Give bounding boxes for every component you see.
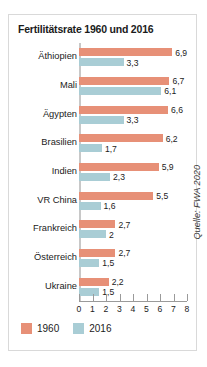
bar-group: 5,92,3 <box>79 158 196 187</box>
value-label: 5,9 <box>162 163 174 171</box>
chart-row: Mali6,76,1 <box>9 72 196 101</box>
chart-row: Indien5,92,3 <box>9 158 196 187</box>
x-tick-label: 0 <box>77 304 82 314</box>
value-label: 6,6 <box>171 106 183 114</box>
bar-group: 6,93,3 <box>79 43 196 72</box>
value-label: 2 <box>109 231 114 239</box>
bar-1960[interactable] <box>79 134 163 142</box>
legend-label-2016: 2016 <box>89 323 111 334</box>
source-note: Quelle: FWA 2020 <box>192 165 202 240</box>
legend-item-2016[interactable]: 2016 <box>73 323 111 334</box>
value-label: 1,5 <box>102 259 114 267</box>
x-tick-label: 1 <box>90 304 95 314</box>
bar-1960[interactable] <box>79 220 115 228</box>
bar-1960[interactable] <box>79 77 169 85</box>
value-label: 6,9 <box>175 49 187 57</box>
chart-row: VR China5,51,6 <box>9 186 196 215</box>
category-label: Äthiopien <box>13 51 77 61</box>
x-tick-label: 8 <box>185 304 190 314</box>
category-label: Ägypten <box>13 109 77 119</box>
bar-group: 6,76,1 <box>79 72 196 101</box>
category-label: Ukraine <box>13 281 77 291</box>
x-tick <box>120 294 121 301</box>
x-tick <box>187 294 188 301</box>
bar-2016[interactable] <box>79 288 99 296</box>
value-label: 2,7 <box>118 249 130 257</box>
bar-2016[interactable] <box>79 116 124 124</box>
chart-row: Ägypten6,63,3 <box>9 100 196 129</box>
bar-2016[interactable] <box>79 202 101 210</box>
x-tick-label: 6 <box>158 304 163 314</box>
bar-2016[interactable] <box>79 87 161 95</box>
x-tick <box>133 294 134 301</box>
x-tick <box>174 294 175 301</box>
bar-1960[interactable] <box>79 163 159 171</box>
x-tick <box>160 294 161 301</box>
value-label: 3,3 <box>127 59 139 67</box>
bar-1960[interactable] <box>79 249 115 257</box>
chart-row: Frankreich2,72 <box>9 215 196 244</box>
bar-1960[interactable] <box>79 192 153 200</box>
bar-2016[interactable] <box>79 259 99 267</box>
x-tick-label: 2 <box>104 304 109 314</box>
value-label: 5,5 <box>156 192 168 200</box>
x-tick-label: 5 <box>144 304 149 314</box>
chart-legend: 1960 2016 <box>21 323 112 334</box>
chart-title: Fertilitätsrate 1960 und 2016 <box>18 23 153 35</box>
bar-2016[interactable] <box>79 58 124 66</box>
x-tick <box>93 294 94 301</box>
x-tick-label: 4 <box>131 304 136 314</box>
legend-label-1960: 1960 <box>37 323 59 334</box>
value-label: 6,2 <box>166 135 178 143</box>
bar-1960[interactable] <box>79 106 168 114</box>
value-label: 2,7 <box>118 221 130 229</box>
x-tick <box>147 294 148 301</box>
category-label: Indien <box>13 166 77 176</box>
legend-item-1960[interactable]: 1960 <box>21 323 59 334</box>
value-label: 6,7 <box>172 77 184 85</box>
category-label: VR China <box>13 195 77 205</box>
bar-2016[interactable] <box>79 144 102 152</box>
x-tick <box>106 294 107 301</box>
x-axis-line <box>79 301 187 302</box>
bar-group: 2,72 <box>79 215 196 244</box>
value-label: 6,1 <box>164 87 176 95</box>
category-label: Österreich <box>13 252 77 262</box>
chart-row: Österreich2,71,5 <box>9 244 196 273</box>
category-label: Mali <box>13 80 77 90</box>
value-label: 2,2 <box>112 278 124 286</box>
bar-1960[interactable] <box>79 48 172 56</box>
bar-2016[interactable] <box>79 173 110 181</box>
bar-group: 6,21,7 <box>79 129 196 158</box>
bar-group: 2,21,5 <box>79 272 196 301</box>
legend-swatch-2016 <box>73 323 84 334</box>
bar-group: 5,51,6 <box>79 186 196 215</box>
chart-row: Äthiopien6,93,3 <box>9 43 196 72</box>
bar-2016[interactable] <box>79 230 106 238</box>
category-label: Brasilien <box>13 137 77 147</box>
category-label: Frankreich <box>13 223 77 233</box>
value-label: 1,6 <box>104 202 116 210</box>
legend-swatch-1960 <box>21 323 32 334</box>
bar-1960[interactable] <box>79 278 109 286</box>
chart-card: Fertilitätsrate 1960 und 2016 Äthiopien6… <box>8 14 197 351</box>
bar-group: 6,63,3 <box>79 100 196 129</box>
value-label: 2,3 <box>113 173 125 181</box>
x-tick <box>79 294 80 301</box>
value-label: 1,5 <box>102 288 114 296</box>
x-tick-label: 3 <box>117 304 122 314</box>
chart-row: Ukraine2,21,5 <box>9 272 196 301</box>
x-tick-label: 7 <box>171 304 176 314</box>
bar-group: 2,71,5 <box>79 244 196 273</box>
value-label: 3,3 <box>127 116 139 124</box>
plot-area: Äthiopien6,93,3Mali6,76,1Ägypten6,63,3Br… <box>9 43 196 318</box>
chart-row: Brasilien6,21,7 <box>9 129 196 158</box>
value-label: 1,7 <box>105 145 117 153</box>
